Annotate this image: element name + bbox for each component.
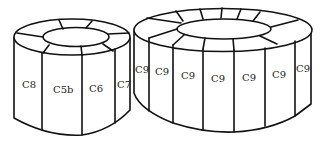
- right-ring-top-divider: [233, 39, 234, 50]
- segment-label: C9: [155, 66, 169, 77]
- right-ring: C9 C9 C9 C9 C9 C9 C9: [134, 8, 312, 132]
- segment-label: C7: [117, 79, 131, 90]
- left-ring-top-divider: [81, 46, 82, 55]
- segment-label: C9: [135, 64, 149, 75]
- left-ring: C8 C5b C6 C7: [14, 19, 131, 135]
- right-ring-top-outer: [134, 9, 312, 52]
- segment-label: C9: [181, 70, 195, 81]
- right-ring-top-divider: [221, 8, 222, 18]
- left-ring-top-outer: [14, 19, 130, 55]
- left-ring-top-divider: [108, 33, 129, 34]
- segment-label: C5b: [53, 84, 73, 95]
- diagram-canvas: C8 C5b C6 C7 C9 C9 C9 C9 C9 C9: [0, 0, 323, 145]
- segment-label: C9: [211, 73, 225, 84]
- segment-label: C8: [22, 79, 36, 90]
- segment-label: C9: [296, 63, 310, 74]
- segment-label: C6: [89, 83, 103, 94]
- segment-label: C9: [272, 69, 286, 80]
- segment-label: C9: [242, 72, 256, 83]
